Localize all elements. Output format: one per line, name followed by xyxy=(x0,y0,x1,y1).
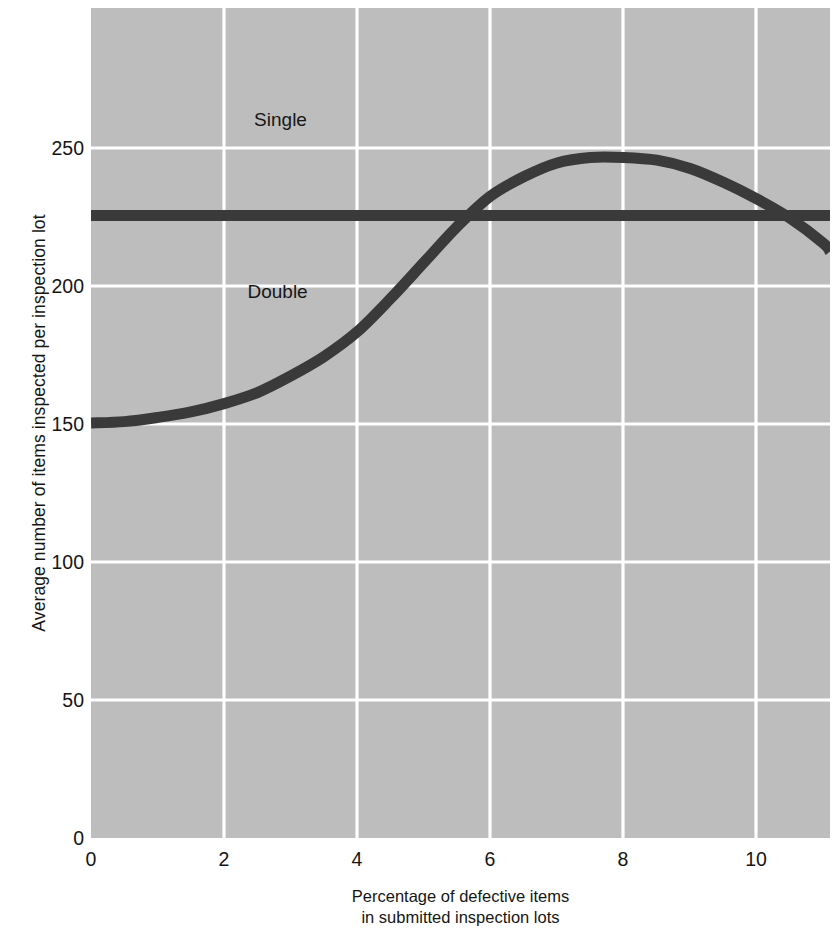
x-axis-caption-line-2: in submitted inspection lots xyxy=(91,907,830,928)
series-label-double: Double xyxy=(247,282,307,301)
x-axis-caption-line-1: Percentage of defective items xyxy=(91,886,830,907)
plot-canvas xyxy=(91,8,830,838)
y-tick-250: 250 xyxy=(22,139,84,159)
x-tick-10: 10 xyxy=(745,848,767,870)
x-axis-tick-labels: 0 2 4 6 8 10 xyxy=(0,848,839,878)
x-tick-0: 0 xyxy=(86,848,97,870)
y-tick-200: 200 xyxy=(22,277,84,297)
y-tick-50: 50 xyxy=(22,691,84,711)
plot-area: Single Double xyxy=(91,8,830,838)
chart-figure: Average number of items inspected per in… xyxy=(0,0,839,937)
x-tick-8: 8 xyxy=(618,848,629,870)
x-tick-6: 6 xyxy=(485,848,496,870)
y-tick-150: 150 xyxy=(22,415,84,435)
y-tick-100: 100 xyxy=(22,553,84,573)
x-tick-2: 2 xyxy=(219,848,230,870)
x-axis-caption: Percentage of defective items in submitt… xyxy=(91,886,830,928)
series-label-single: Single xyxy=(254,110,307,129)
y-axis-tick-labels: 0 50 100 150 200 250 xyxy=(20,0,84,937)
y-tick-0: 0 xyxy=(22,829,84,849)
series-line-double xyxy=(91,157,830,423)
x-tick-4: 4 xyxy=(352,848,363,870)
